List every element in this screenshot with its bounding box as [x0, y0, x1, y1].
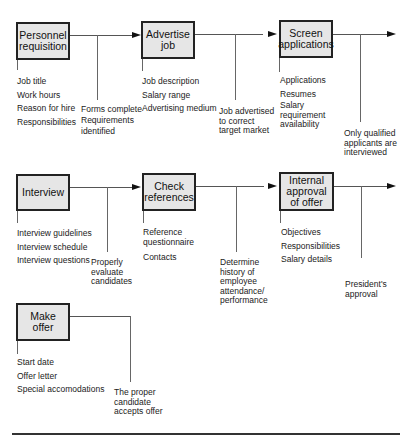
flow-line [70, 316, 130, 317]
list-item: Interview schedule [17, 241, 92, 255]
list-item: Reference questionnaire [143, 228, 205, 247]
arrow-icon [268, 31, 277, 37]
step-label: Make offer [21, 311, 65, 333]
outcome-note: Only qualified applicants are interviewe… [344, 129, 397, 158]
list-item: Start date [17, 356, 104, 370]
connector [17, 211, 18, 223]
connector [361, 186, 362, 258]
list-item: Resumes [280, 88, 350, 102]
list-item: Job title [17, 75, 76, 89]
outcome-note: The proper candidate accepts offer [114, 388, 163, 417]
flow-line [70, 187, 132, 188]
inputs-make-offer: Start date Offer letter Special accomoda… [17, 356, 104, 397]
list-item: Salary requirement availability [280, 101, 350, 130]
connector [130, 316, 131, 382]
step-interview: Interview [16, 174, 70, 211]
arrow-icon [132, 184, 141, 190]
step-screen-applications: Screen applications [279, 20, 333, 58]
list-item: Special accomodations [17, 383, 104, 397]
flow-line [334, 186, 390, 187]
step-label: Interview [22, 187, 64, 198]
list-item: Offer letter [17, 370, 104, 384]
list-item: Interview guidelines [17, 227, 92, 241]
list-item: Job description [142, 75, 217, 89]
step-label: Internal approval of offer [284, 175, 329, 208]
arrow-icon [268, 183, 277, 189]
list-item: Salary details [281, 253, 340, 267]
outcome-note: Determine history of employee attendance… [220, 258, 268, 306]
connector [235, 34, 236, 100]
list-item: Applications [280, 74, 350, 88]
list-item: Objectives [281, 226, 340, 240]
step-label: Personnel requisition [19, 30, 67, 52]
list-item: Responsibilities [281, 240, 340, 254]
list-item: Advertising medium [142, 102, 217, 116]
flow-line [333, 34, 389, 35]
arrow-icon [132, 32, 141, 38]
step-label: Screen applications [278, 28, 333, 50]
connector [143, 211, 144, 223]
arrow-icon [387, 31, 396, 37]
inputs-screen-applications: Applications Resumes Salary requirement … [280, 74, 350, 130]
connector [280, 211, 281, 223]
step-personnel-requisition: Personnel requisition [16, 22, 70, 60]
inputs-internal-approval: Objectives Responsibilities Salary detai… [281, 226, 340, 267]
step-make-offer: Make offer [16, 303, 70, 341]
list-item: Work hours [17, 89, 76, 103]
step-check-references: Check references [142, 173, 196, 211]
list-item: Reason for hire [17, 102, 76, 116]
inputs-check-references: Reference questionnaire Contacts [143, 228, 205, 265]
connector [142, 59, 143, 71]
step-advertise-job: Advertise job [141, 21, 195, 59]
step-internal-approval-of-offer: Internal approval of offer [279, 172, 334, 211]
outcome-note: President's approval [345, 280, 387, 299]
footer-rule [12, 433, 400, 435]
list-item: Responsibilities [17, 116, 76, 130]
connector [97, 35, 98, 100]
flow-line [195, 34, 263, 35]
connector [279, 58, 280, 72]
step-label: Check references [144, 181, 194, 203]
inputs-advertise-job: Job description Salary range Advertising… [142, 75, 217, 116]
outcome-note: Job advertised to correct target market [219, 107, 274, 136]
flow-line [70, 35, 132, 36]
inputs-personnel-requisition: Job title Work hours Reason for hire Res… [17, 75, 76, 129]
outcome-note: Forms complete Requirements identified [81, 104, 142, 137]
list-item: Contacts [143, 251, 205, 265]
arrow-icon [387, 183, 396, 189]
flow-line [196, 186, 264, 187]
list-item: Salary range [142, 89, 217, 103]
connector [360, 34, 361, 122]
connector [236, 186, 237, 252]
connector [107, 187, 108, 252]
step-label: Advertise job [146, 29, 190, 51]
inputs-interview: Interview guidelines Interview schedule … [17, 227, 92, 268]
connector [17, 60, 18, 70]
connector [17, 341, 18, 354]
outcome-note: Properly evaluate candidates [91, 258, 132, 287]
list-item: Interview questions [17, 254, 92, 268]
